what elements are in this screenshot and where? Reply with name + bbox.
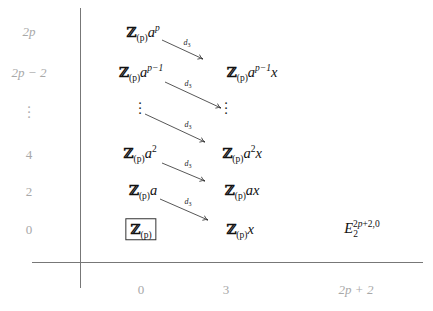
d3-label-4: d3: [185, 159, 192, 168]
col3-vdots: ···: [224, 101, 228, 116]
spectral-sequence-diagram: 2p 2p − 2 ··· 4 2 0 0 3 2p + 2 ℤ(p)ap ℤ(…: [0, 0, 433, 311]
d3-label-1: d3: [184, 38, 191, 47]
y-label-2p: 2p: [23, 25, 36, 38]
entry-z-a-2-x: ℤ(p)a2x: [222, 146, 262, 161]
x-label-0: 0: [138, 283, 145, 296]
x-label-2p-plus-2: 2p + 2: [339, 283, 374, 296]
d3-label-3: d3: [185, 120, 192, 129]
d3-arrow-3: [145, 114, 205, 142]
y-label-0: 0: [26, 223, 33, 236]
y-label-2: 2: [26, 185, 33, 198]
entry-z-boxed: ℤ(p): [125, 218, 156, 240]
entry-e2-2p-plus-2-0: E22p+2,0: [344, 221, 379, 236]
entry-z-a: ℤ(p)a: [129, 183, 158, 198]
entry-z-a-p-minus-1: ℤ(p)ap−1: [119, 65, 163, 80]
entry-z-x: ℤ(p)x: [226, 222, 254, 237]
y-label-vdots: ···: [27, 105, 31, 120]
entry-z-a-p-minus-1-x: ℤ(p)ap−1x: [227, 65, 278, 80]
d3-arrow-4: [162, 163, 205, 181]
d3-label-2: d3: [185, 79, 192, 88]
entry-z-a-p: ℤ(p)ap: [126, 25, 159, 40]
d3-arrow-1: [162, 40, 203, 59]
col0-vdots: ···: [138, 101, 142, 116]
axes-and-arrows: [0, 0, 433, 311]
entry-z-a-x: ℤ(p)ax: [225, 183, 260, 198]
d3-arrow-2: [165, 82, 221, 108]
d3-label-5: d3: [185, 197, 192, 206]
y-label-2p-minus-2: 2p − 2: [12, 66, 47, 79]
entry-z-a-2: ℤ(p)a2: [123, 146, 156, 161]
x-label-3: 3: [223, 283, 230, 296]
y-label-4: 4: [26, 148, 33, 161]
